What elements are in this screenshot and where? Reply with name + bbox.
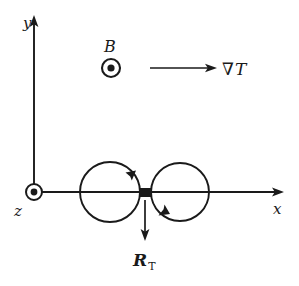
nabla-glyph: ∇ (222, 59, 234, 79)
right-orbit-arrowhead (159, 205, 171, 216)
temperature-gradient-arrow (150, 64, 217, 72)
impurity-block (139, 188, 152, 197)
y-axis-label: y (22, 14, 32, 32)
x-axis-label: x (273, 200, 282, 218)
y-axis (30, 15, 39, 192)
gradient-variable: T (235, 59, 248, 79)
gradient-label: ∇T (222, 59, 248, 79)
response-vector-arrow (141, 200, 150, 241)
diagram-canvas: y x z B ∇T (0, 0, 299, 286)
magnetic-field-label: B (103, 37, 116, 56)
z-axis-out-of-page-icon (26, 184, 42, 200)
magnetic-field-out-of-page-icon (102, 59, 120, 77)
response-vector-label: RT (132, 250, 156, 273)
b-icon-center-dot (107, 64, 114, 71)
physics-diagram-figure: y x z B ∇T (0, 0, 299, 286)
z-axis-label: z (13, 202, 22, 220)
response-vector-symbol: R (132, 250, 147, 270)
x-axis (34, 188, 284, 197)
z-icon-center-dot (31, 189, 38, 196)
response-vector-subscript: T (148, 260, 156, 273)
